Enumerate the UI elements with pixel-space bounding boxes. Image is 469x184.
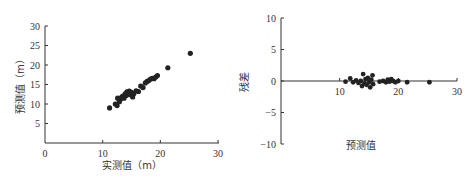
x-tick-label: 30 bbox=[213, 148, 223, 159]
chart-right-residuals: 1050−5−10 102030 预测值 残差 bbox=[238, 13, 462, 152]
y-tick-label: 5 bbox=[35, 118, 40, 129]
data-point bbox=[361, 72, 366, 77]
y-axis-label-left: 预测值（m） bbox=[14, 54, 26, 114]
data-point bbox=[427, 80, 432, 85]
y-tick-label: 5 bbox=[271, 44, 276, 55]
data-point bbox=[140, 85, 145, 90]
data-point bbox=[371, 82, 376, 87]
data-point bbox=[188, 51, 193, 56]
y-ticks-right: 1050−5−10 bbox=[260, 13, 284, 150]
y-tick-label: 20 bbox=[30, 60, 40, 71]
data-point bbox=[136, 89, 141, 94]
y-tick-label: −5 bbox=[265, 107, 276, 118]
y-tick-label: 0 bbox=[271, 76, 276, 87]
data-point bbox=[155, 73, 160, 78]
x-tick-label: 30 bbox=[452, 86, 462, 97]
y-tick-label: 10 bbox=[266, 13, 276, 24]
x-tick-label: 20 bbox=[155, 148, 165, 159]
data-point bbox=[165, 65, 170, 70]
figure: 51015202530 0102030 实测值（m） 预测值（m） 1050−5… bbox=[0, 0, 469, 184]
y-tick-label: 30 bbox=[30, 21, 40, 32]
chart-left-observed-vs-predicted: 51015202530 0102030 实测值（m） 预测值（m） bbox=[14, 21, 223, 172]
data-points-left bbox=[107, 51, 193, 111]
x-axis-label-left: 实测值（m） bbox=[102, 159, 162, 171]
data-point bbox=[405, 80, 410, 85]
data-point bbox=[107, 105, 112, 110]
data-point bbox=[343, 79, 348, 84]
y-tick-label: −10 bbox=[260, 139, 276, 150]
data-point bbox=[370, 73, 375, 78]
x-tick-label: 20 bbox=[393, 86, 403, 97]
y-tick-label: 10 bbox=[30, 99, 40, 110]
data-point bbox=[396, 79, 401, 84]
y-tick-label: 25 bbox=[30, 40, 40, 51]
data-point bbox=[369, 77, 374, 82]
x-tick-label: 10 bbox=[98, 148, 108, 159]
y-axis-label-right: 残差 bbox=[238, 72, 250, 92]
x-tick-label: 10 bbox=[335, 86, 345, 97]
y-tick-label: 15 bbox=[30, 79, 40, 90]
x-axis-label-right: 预测值 bbox=[346, 139, 376, 151]
x-tick-label: 0 bbox=[43, 148, 48, 159]
data-point bbox=[348, 76, 353, 81]
